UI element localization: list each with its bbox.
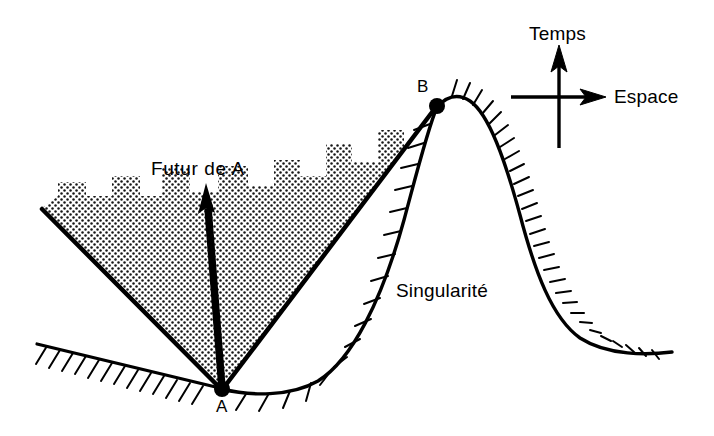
space-axis-label: Espace bbox=[614, 87, 679, 106]
future-cone-label: Futur de A bbox=[151, 159, 245, 178]
point-a-marker bbox=[214, 381, 230, 397]
time-axis-label: Temps bbox=[529, 24, 586, 43]
point-b-marker bbox=[429, 98, 445, 114]
singularity-left-hatching bbox=[36, 346, 203, 404]
singularity-descent-hatching bbox=[452, 80, 659, 359]
spacetime-diagram-figure: Futur de A Singularité Temps Espace A B bbox=[0, 0, 714, 436]
singularity-label: Singularité bbox=[396, 281, 488, 300]
axis-key bbox=[511, 45, 606, 148]
point-b-label: B bbox=[417, 78, 428, 95]
diagram-canvas bbox=[0, 0, 714, 436]
point-a-label: A bbox=[216, 398, 227, 415]
